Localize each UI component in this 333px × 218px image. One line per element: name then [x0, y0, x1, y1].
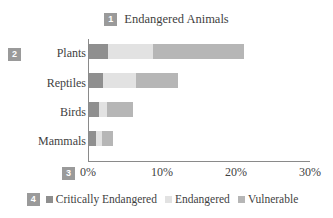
- x-axis-line: [88, 161, 310, 162]
- bar-segment-vulnerable: [136, 73, 177, 88]
- bar-segment-endangered: [96, 131, 103, 146]
- bar-segment-endangered: [108, 44, 154, 59]
- bar-segment-critically-endangered: [89, 73, 103, 88]
- bar-row-birds: [89, 102, 133, 117]
- bar-segment-endangered: [103, 73, 136, 88]
- legend-items: Critically EndangeredEndangeredVulnerabl…: [46, 192, 307, 204]
- bar-segment-vulnerable: [107, 102, 133, 117]
- chart-title-row: 1Endangered Animals: [0, 9, 333, 27]
- x-tick-label: 30%: [299, 165, 321, 180]
- bar-segment-vulnerable: [153, 44, 243, 59]
- legend-item-critically-endangered[interactable]: Critically Endangered: [46, 193, 157, 205]
- bar-row-mammals: [89, 131, 113, 146]
- endangered-animals-chart: 1Endangered Animals 2 Plants Reptiles Bi…: [0, 0, 333, 218]
- x-tick-label: 0%: [80, 165, 96, 180]
- x-tick-label: 10%: [151, 165, 173, 180]
- x-tick-label: 20%: [225, 165, 247, 180]
- legend-swatch-icon: [46, 196, 53, 203]
- annotation-badge-3: 3: [62, 167, 75, 180]
- x-axis-tick-labels: 0%10%20%30%: [88, 165, 318, 181]
- chart-legend: 4Critically EndangeredEndangeredVulnerab…: [0, 192, 333, 206]
- plot-area: [88, 39, 310, 162]
- bar-row-reptiles: [89, 73, 178, 88]
- bar-segment-endangered: [99, 102, 108, 117]
- chart-title: Endangered Animals: [124, 12, 229, 26]
- category-label-reptiles: Reptiles: [2, 76, 86, 91]
- legend-swatch-icon: [165, 196, 172, 203]
- bar-segment-critically-endangered: [89, 102, 99, 117]
- category-label-mammals: Mammals: [2, 134, 86, 149]
- bar-segment-vulnerable: [102, 131, 112, 146]
- legend-item-vulnerable[interactable]: Vulnerable: [238, 193, 298, 205]
- bar-segment-critically-endangered: [89, 131, 96, 146]
- legend-item-endangered[interactable]: Endangered: [165, 193, 230, 205]
- bar-segment-critically-endangered: [89, 44, 108, 59]
- annotation-badge-4: 4: [27, 193, 40, 206]
- annotation-badge-1: 1: [104, 13, 117, 26]
- category-axis-labels: 2 Plants Reptiles Birds Mammals: [0, 39, 86, 162]
- category-label-birds: Birds: [2, 105, 86, 120]
- legend-label: Endangered: [175, 193, 230, 205]
- bar-row-plants: [89, 44, 244, 59]
- legend-label: Vulnerable: [248, 193, 298, 205]
- legend-swatch-icon: [238, 196, 245, 203]
- legend-label: Critically Endangered: [56, 193, 157, 205]
- category-label-plants: Plants: [2, 46, 86, 61]
